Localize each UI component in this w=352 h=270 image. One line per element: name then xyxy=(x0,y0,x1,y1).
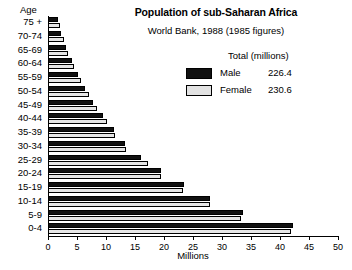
bar-male xyxy=(48,31,61,36)
bar-male xyxy=(48,127,114,132)
bar-female xyxy=(48,174,161,179)
bar-group xyxy=(48,196,338,210)
bar-male xyxy=(48,155,141,160)
y-axis-tick-label: 75 + xyxy=(0,16,42,27)
bar-group xyxy=(48,210,338,224)
bar-male xyxy=(48,223,293,228)
bar-group xyxy=(48,100,338,114)
bar-group xyxy=(48,182,338,196)
plot-area: 05101520253035404550 xyxy=(48,16,338,236)
population-pyramid-chart: Population of sub-Saharan Africa World B… xyxy=(0,0,352,270)
y-axis-tick-label: 45-49 xyxy=(0,99,42,110)
bar-female xyxy=(48,37,64,42)
y-axis-tick-label: 35-39 xyxy=(0,126,42,137)
bar-group xyxy=(48,141,338,155)
bar-male xyxy=(48,17,58,22)
x-axis-tick-label: 5 xyxy=(74,242,79,252)
y-axis-tick-label: 15-19 xyxy=(0,181,42,192)
bar-male xyxy=(48,196,210,201)
x-axis-tick-label: 50 xyxy=(333,242,343,252)
bar-male xyxy=(48,100,93,105)
bar-female xyxy=(48,78,81,83)
y-axis-tick-label: 70-74 xyxy=(0,30,42,41)
bar-group xyxy=(48,168,338,182)
bar-female xyxy=(48,202,210,207)
bar-female xyxy=(48,161,148,166)
bar-female xyxy=(48,133,115,138)
y-axis-tick-label: 55-59 xyxy=(0,71,42,82)
x-axis-tick-label: 25 xyxy=(188,242,198,252)
bar-group xyxy=(48,72,338,86)
x-axis-tick-label: 30 xyxy=(217,242,227,252)
bar-female xyxy=(48,51,68,56)
bar-male xyxy=(48,58,72,63)
bar-group xyxy=(48,45,338,59)
bar-male xyxy=(48,86,85,91)
bar-group xyxy=(48,58,338,72)
bar-female xyxy=(48,119,107,124)
bar-group xyxy=(48,86,338,100)
y-axis-tick-label: 50-54 xyxy=(0,85,42,96)
y-axis-tick-label: 65-69 xyxy=(0,44,42,55)
bar-group xyxy=(48,113,338,127)
y-axis-tick-label: 10-14 xyxy=(0,195,42,206)
bar-female xyxy=(48,147,126,152)
bar-female xyxy=(48,216,241,221)
y-axis-tick-label: 40-44 xyxy=(0,112,42,123)
y-axis-tick-label: 0-4 xyxy=(0,222,42,233)
x-axis-tick-label: 40 xyxy=(275,242,285,252)
bar-female xyxy=(48,229,291,234)
x-axis-tick-label: 0 xyxy=(45,242,50,252)
y-axis-title: Age xyxy=(20,4,37,15)
x-axis-tick-label: 35 xyxy=(246,242,256,252)
bar-male xyxy=(48,45,66,50)
y-axis-tick-label: 5-9 xyxy=(0,209,42,220)
bar-male xyxy=(48,210,243,215)
y-axis-tick-label: 20-24 xyxy=(0,167,42,178)
bar-female xyxy=(48,92,89,97)
bar-male xyxy=(48,141,125,146)
bar-female xyxy=(48,23,60,28)
bar-group xyxy=(48,31,338,45)
bar-male xyxy=(48,168,161,173)
bar-male xyxy=(48,113,103,118)
x-axis-tick xyxy=(338,236,339,240)
bar-group xyxy=(48,223,338,237)
x-axis-tick-label: 45 xyxy=(304,242,314,252)
y-axis-tick-label: 60-64 xyxy=(0,57,42,68)
bar-female xyxy=(48,106,97,111)
x-axis-tick-label: 15 xyxy=(130,242,140,252)
x-axis-tick-label: 10 xyxy=(101,242,111,252)
bar-group xyxy=(48,127,338,141)
bar-group xyxy=(48,17,338,31)
bar-male xyxy=(48,72,78,77)
bar-female xyxy=(48,64,74,69)
bar-group xyxy=(48,155,338,169)
bar-female xyxy=(48,188,183,193)
y-axis-tick-label: 30-34 xyxy=(0,140,42,151)
x-axis-tick-label: 20 xyxy=(159,242,169,252)
y-axis-tick-label: 25-29 xyxy=(0,154,42,165)
y-axis-tick-labels: 75 +70-7465-6960-6455-5950-5445-4940-443… xyxy=(0,16,44,236)
bar-male xyxy=(48,182,184,187)
